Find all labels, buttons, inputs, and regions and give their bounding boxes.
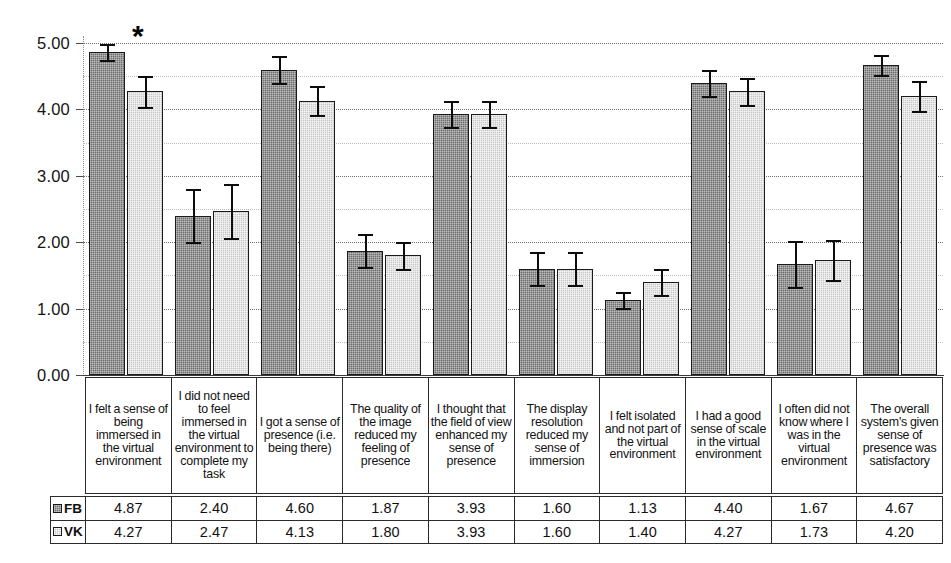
bar-series-container: *	[83, 43, 943, 375]
bar-vk[interactable]	[385, 255, 421, 375]
bar-group	[169, 43, 255, 375]
bar-vk[interactable]	[471, 114, 507, 375]
error-bar-cap	[310, 86, 325, 88]
error-bar-fb	[795, 241, 797, 287]
significance-asterisk: *	[132, 21, 144, 51]
error-bar-vk	[231, 184, 233, 237]
error-bar-fb	[365, 234, 367, 267]
table-cell-value: 4.13	[257, 521, 343, 544]
bar-fb[interactable]	[89, 52, 125, 375]
error-bar-cap	[482, 101, 497, 103]
bar-group	[599, 43, 685, 375]
error-bar-cap	[396, 242, 411, 244]
error-bar-cap	[482, 127, 497, 129]
bar-vk[interactable]	[299, 101, 335, 375]
error-bar-cap	[616, 292, 631, 294]
table-cell-value: 4.40	[686, 497, 772, 520]
y-axis-tick-mark	[76, 43, 83, 44]
error-bar-vk	[489, 101, 491, 128]
error-bar-cap	[654, 295, 669, 297]
error-bar-cap	[616, 308, 631, 310]
error-bar-fb	[537, 252, 539, 285]
table-cell-value: 1.13	[600, 497, 686, 520]
table-cell-value: 1.87	[343, 497, 429, 520]
x-axis-line	[83, 375, 944, 376]
error-bar-cap	[358, 234, 373, 236]
table-cell-value: 2.47	[172, 521, 258, 544]
category-label-cell: The overall system's given sense of pres…	[857, 378, 942, 493]
bar-group	[427, 43, 513, 375]
table-cell-value: 4.27	[686, 521, 772, 544]
error-bar-vk	[919, 81, 921, 112]
error-bar-cap	[138, 76, 153, 78]
error-bar-fb	[279, 56, 281, 83]
error-bar-vk	[833, 240, 835, 280]
bar-fb[interactable]	[347, 251, 383, 375]
bar-group	[341, 43, 427, 375]
bar-vk[interactable]	[901, 96, 937, 375]
error-bar-cap	[530, 285, 545, 287]
error-bar-cap	[654, 269, 669, 271]
error-bar-cap	[358, 267, 373, 269]
error-bar-cap	[788, 241, 803, 243]
table-cell-value: 1.60	[515, 497, 601, 520]
error-bar-cap	[272, 56, 287, 58]
table-cell-value: 4.60	[257, 497, 343, 520]
y-axis-tick-label: 1.00	[8, 300, 70, 317]
error-bar-fb	[451, 101, 453, 128]
error-bar-cap	[444, 127, 459, 129]
category-label-cell: The quality of the image reduced my feel…	[343, 378, 429, 493]
y-axis-tick-mark	[76, 375, 83, 376]
error-bar-cap	[224, 184, 239, 186]
bar-fb[interactable]	[863, 65, 899, 375]
fb-swatch-icon	[53, 504, 62, 513]
y-axis-tick-label: 3.00	[8, 168, 70, 185]
error-bar-vk	[403, 242, 405, 269]
category-label-cell: I thought that the field of view enhance…	[429, 378, 515, 493]
error-bar-vk	[747, 78, 749, 105]
bar-group	[255, 43, 341, 375]
error-bar-cap	[874, 75, 889, 77]
error-bar-cap	[186, 242, 201, 244]
error-bar-cap	[874, 55, 889, 57]
category-label-cell: I did not need to feel immersed in the v…	[172, 378, 258, 493]
category-label-cell: I had a good sense of scale in the virtu…	[686, 378, 772, 493]
error-bar-cap	[396, 269, 411, 271]
error-bar-cap	[530, 252, 545, 254]
y-axis-tick-label: 0.00	[8, 367, 70, 384]
table-row: FB4.872.404.601.873.931.601.134.401.674.…	[51, 497, 942, 521]
error-bar-fb	[709, 70, 711, 97]
table-cell-value: 4.20	[857, 521, 942, 544]
error-bar-cap	[912, 81, 927, 83]
error-bar-cap	[568, 252, 583, 254]
bar-fb[interactable]	[433, 114, 469, 375]
bar-fb[interactable]	[691, 83, 727, 375]
table-row: VK4.272.474.131.803.931.601.404.271.734.…	[51, 521, 942, 544]
bar-group	[513, 43, 599, 375]
error-bar-cap	[186, 189, 201, 191]
bar-vk[interactable]	[127, 91, 163, 375]
error-bar-cap	[224, 238, 239, 240]
table-cell-value: 1.80	[343, 521, 429, 544]
error-bar-cap	[100, 60, 115, 62]
table-cell-value: 1.67	[772, 497, 858, 520]
error-bar-cap	[100, 44, 115, 46]
y-axis-tick-label: 4.00	[8, 101, 70, 118]
legend-cell-fb: FB	[51, 497, 86, 520]
bar-fb[interactable]	[605, 300, 641, 375]
error-bar-cap	[788, 287, 803, 289]
error-bar-cap	[444, 101, 459, 103]
category-label-cell: I felt a sense of being immersed in the …	[86, 378, 172, 493]
legend-label: FB	[64, 501, 82, 516]
error-bar-cap	[568, 285, 583, 287]
category-label-cell: I got a sense of presence (i.e. being th…	[257, 378, 343, 493]
table-cell-value: 4.67	[857, 497, 942, 520]
error-bar-fb	[623, 292, 625, 308]
error-bar-fb	[107, 44, 109, 60]
table-cell-value: 1.73	[772, 521, 858, 544]
bar-fb[interactable]	[261, 70, 297, 375]
table-cell-value: 4.87	[86, 497, 172, 520]
category-label-cell: I often did not know where I was in the …	[772, 378, 858, 493]
bar-vk[interactable]	[729, 91, 765, 375]
table-cell-value: 1.60	[515, 521, 601, 544]
